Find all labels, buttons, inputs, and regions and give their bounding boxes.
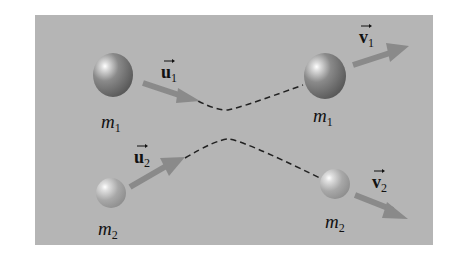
ball-m1-final [304,53,346,99]
collision-diagram: m1 m2 m1 m2 u1 u2 v1 v2 [0,0,453,257]
ball-m1-initial [93,53,133,97]
ball-m2-initial [96,178,126,208]
ball-m2-final [320,169,350,199]
